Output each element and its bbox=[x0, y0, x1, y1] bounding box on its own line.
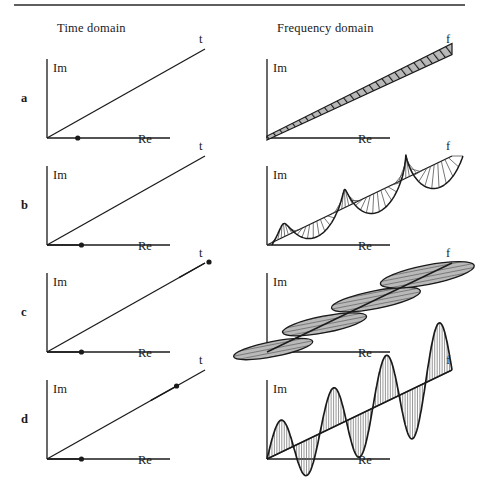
helix-spoke-1 bbox=[432, 165, 434, 189]
helix-spoke-1 bbox=[381, 190, 386, 207]
figure-root: Time domain Frequency domain a b c d ImR… bbox=[0, 0, 479, 504]
helix-spoke-1 bbox=[445, 159, 453, 176]
helix-spoke-1 bbox=[373, 194, 374, 214]
t-axis-1 bbox=[47, 156, 205, 245]
re-label-left-0: Re bbox=[138, 132, 152, 146]
phasor-dot-3 bbox=[79, 456, 84, 461]
t-label-2: t bbox=[199, 246, 203, 260]
t-label-3: t bbox=[199, 353, 203, 367]
re-label-right-3: Re bbox=[358, 453, 372, 467]
helix-spoke-1 bbox=[438, 163, 439, 188]
f-label-1: f bbox=[446, 139, 451, 153]
helix-spoke-1 bbox=[414, 170, 424, 176]
im-label-left-1: Im bbox=[53, 168, 67, 182]
re-label-left-3: Re bbox=[138, 453, 152, 467]
helix-spoke-1 bbox=[441, 161, 446, 183]
figure-canvas: ImRetImRefImRetImRefImRetImRefImRetImRef bbox=[0, 0, 479, 504]
im-label-right-3: Im bbox=[273, 382, 287, 396]
helix-spoke-1 bbox=[388, 187, 397, 192]
plot-group: ImRetImRefImRetImRefImRetImRefImRetImRef bbox=[47, 32, 476, 476]
t-axis-3 bbox=[47, 370, 205, 459]
f-axis-overlay-3 bbox=[267, 370, 452, 459]
helix-spoke-1 bbox=[320, 219, 324, 231]
helix-spoke-1 bbox=[377, 192, 379, 212]
re-label-right-0: Re bbox=[358, 132, 372, 146]
phasor-dot-2 bbox=[79, 349, 84, 354]
helix-spoke-1 bbox=[307, 224, 309, 238]
t-label-0: t bbox=[199, 32, 203, 46]
helix-spoke-1 bbox=[283, 224, 284, 237]
im-label-left-2: Im bbox=[53, 275, 67, 289]
re-label-right-2: Re bbox=[358, 346, 372, 360]
t-axis-0 bbox=[47, 49, 205, 138]
helix-spoke-1 bbox=[327, 216, 334, 218]
im-label-left-3: Im bbox=[53, 382, 67, 396]
frequency-band-0 bbox=[267, 44, 452, 141]
f-label-2: f bbox=[446, 246, 451, 260]
phasor-dot-0 bbox=[75, 135, 80, 140]
im-label-right-1: Im bbox=[273, 168, 287, 182]
t-vector-2 bbox=[179, 263, 205, 278]
helix-spoke-1 bbox=[324, 218, 330, 225]
re-label-left-2: Re bbox=[138, 346, 152, 360]
helix-spoke-1 bbox=[317, 221, 319, 236]
helix-spoke-1 bbox=[344, 190, 345, 208]
re-label-right-1: Re bbox=[358, 239, 372, 253]
im-label-left-0: Im bbox=[53, 61, 67, 75]
t-dot-2 bbox=[206, 259, 211, 264]
phasor-dot-1 bbox=[79, 242, 84, 247]
im-label-right-2: Im bbox=[273, 275, 287, 289]
helix-spoke-1 bbox=[366, 195, 370, 212]
helix-curve-1 bbox=[272, 155, 463, 245]
helix-spoke-1 bbox=[448, 158, 458, 167]
t-dot-3 bbox=[174, 383, 179, 388]
im-label-right-0: Im bbox=[273, 61, 287, 75]
t-vector-3 bbox=[151, 386, 177, 401]
f-axis-overlay-2 bbox=[267, 263, 452, 352]
re-label-left-1: Re bbox=[138, 239, 152, 253]
helix-spoke-1 bbox=[384, 189, 391, 201]
t-label-1: t bbox=[199, 139, 203, 153]
